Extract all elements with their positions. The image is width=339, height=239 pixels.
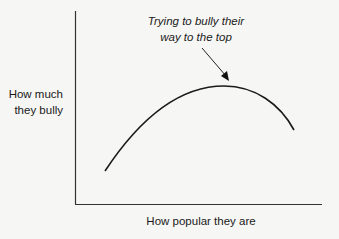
y-axis-label-line-2: they bully xyxy=(9,102,63,118)
x-axis-label: How popular they are xyxy=(0,213,339,229)
annotation-arrow-icon xyxy=(202,48,229,81)
data-curve xyxy=(105,86,294,171)
peak-annotation: Trying to bully their way to the top xyxy=(136,13,256,45)
annotation-line-1: Trying to bully their xyxy=(136,13,256,29)
y-axis-label: How much they bully xyxy=(9,86,63,118)
annotation-line-2: way to the top xyxy=(136,29,256,45)
y-axis-label-line-1: How much xyxy=(9,86,63,102)
